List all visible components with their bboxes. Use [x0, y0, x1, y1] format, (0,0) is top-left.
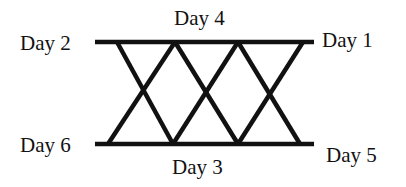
- label-day-2: Day 2: [20, 33, 71, 54]
- label-day-5: Day 5: [326, 145, 377, 166]
- label-day-3: Day 3: [172, 157, 223, 178]
- label-day-1: Day 1: [322, 30, 373, 51]
- label-day-6: Day 6: [20, 135, 71, 156]
- label-day-4: Day 4: [174, 8, 225, 29]
- day-sequence-diagram: Day 2 Day 4 Day 1 Day 6 Day 3 Day 5: [0, 0, 406, 187]
